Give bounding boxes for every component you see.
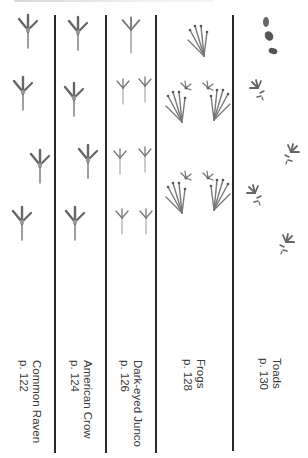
species-name: Frogs <box>194 359 207 391</box>
label-raven: Common Raven p. 122 <box>17 360 43 443</box>
tracks-illustration <box>0 0 308 300</box>
page-ref: p. 122 <box>17 360 30 443</box>
crow-tracks <box>65 17 97 240</box>
species-name: Toads <box>270 358 283 390</box>
page-ref: p. 128 <box>181 359 194 391</box>
page-ref: p. 130 <box>257 358 270 390</box>
page-ref: p. 126 <box>118 360 131 447</box>
species-name: Dark-eyed Junco <box>131 360 144 447</box>
toad-tracks <box>247 17 299 254</box>
label-toads: Toads p. 130 <box>257 358 283 390</box>
species-name: Common Raven <box>30 360 43 443</box>
frog-tracks <box>166 25 230 213</box>
label-crow: American Crow p. 124 <box>68 360 94 439</box>
raven-tracks <box>13 15 49 240</box>
page-ref: p. 124 <box>68 360 81 439</box>
species-name: American Crow <box>81 360 94 439</box>
label-frogs: Frogs p. 128 <box>181 359 207 391</box>
label-junco: Dark-eyed Junco p. 126 <box>118 360 144 447</box>
junco-tracks <box>114 17 152 234</box>
